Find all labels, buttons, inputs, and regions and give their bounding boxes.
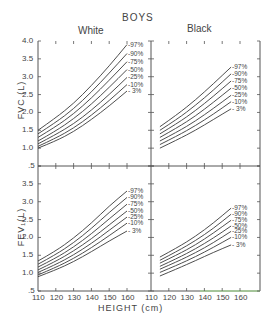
percentile-label: -25% <box>128 73 143 80</box>
x-tick-label: 130 <box>68 293 81 302</box>
percentile-label: -50% <box>232 84 247 91</box>
percentile-label: -90% <box>232 70 247 77</box>
percentile-label: -97% <box>128 41 143 48</box>
x-tick-label: 150 <box>216 293 229 302</box>
y-tick-label: 2.5 <box>22 215 33 224</box>
y-tick-label: 1.0 <box>22 143 33 152</box>
percentile-curve <box>38 231 127 277</box>
percentile-curve <box>38 191 127 261</box>
y-tick-label: 1.5 <box>22 125 33 134</box>
y-tick-label: 2.0 <box>22 232 33 241</box>
y-tick-label: 1.5 <box>22 250 33 259</box>
percentile-label: -10% <box>128 219 143 226</box>
x-tick-label: 120 <box>163 293 176 302</box>
percentile-curve <box>38 77 127 143</box>
percentile-curve <box>160 214 231 260</box>
percentile-label: - 3% <box>128 227 141 234</box>
x-tick-label: 140 <box>198 293 211 302</box>
x-tick-label: 160 <box>234 293 247 302</box>
y-tick-label: 4.0 <box>22 36 33 45</box>
x-tick-label: 160 <box>121 293 134 302</box>
percentile-label: - 3% <box>232 105 245 112</box>
y-tick-label: 2.0 <box>22 107 33 116</box>
percentile-curve <box>38 70 127 141</box>
percentile-curve <box>160 74 231 130</box>
percentile-curve <box>160 245 231 276</box>
percentile-curve <box>160 109 231 148</box>
y-tick-label: 3.5 <box>22 179 33 188</box>
x-tick-label: 110 <box>32 293 45 302</box>
y-tick-label: .5 <box>28 161 35 170</box>
x-axis-label: HEIGHT (cm) <box>98 303 163 313</box>
x-tick-label: 150 <box>103 293 116 302</box>
percentile-label: -75% <box>232 77 247 84</box>
percentile-label: - 3% <box>128 87 141 94</box>
percentile-label: -75% <box>128 58 143 65</box>
group-label-black: Black <box>187 23 211 34</box>
percentile-label: -10% <box>232 233 247 240</box>
percentile-label: - 3% <box>232 241 245 248</box>
percentile-label: -90% <box>128 50 143 57</box>
y-tick-label: 1.0 <box>22 268 33 277</box>
y-axis-label-fev1: FEV₁(L) <box>16 202 26 252</box>
x-tick-label: 130 <box>181 293 194 302</box>
y-tick-label: 2.5 <box>22 90 33 99</box>
y-tick-label: 3.0 <box>22 72 33 81</box>
percentile-label: -50% <box>128 66 143 73</box>
chart-canvas <box>0 0 269 321</box>
y-tick-label: 3.5 <box>22 54 33 63</box>
x-tick-label: 140 <box>85 293 98 302</box>
percentile-label: -10% <box>232 98 247 105</box>
percentile-curve <box>160 95 231 141</box>
x-tick-label: 110 <box>145 293 158 302</box>
chart-title: BOYS <box>122 12 154 23</box>
y-axis-label-fvc: FVC (L) <box>16 75 26 125</box>
x-tick-label: 120 <box>50 293 63 302</box>
group-label-white: White <box>78 25 104 36</box>
y-tick-label: 3.0 <box>22 197 33 206</box>
percentile-curve <box>160 231 231 269</box>
